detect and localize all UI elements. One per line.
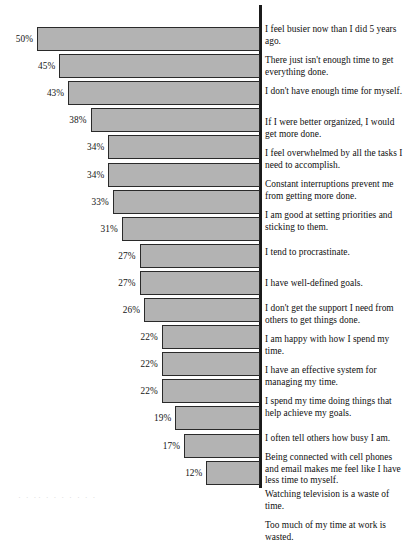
bar bbox=[184, 434, 260, 458]
bar bbox=[175, 406, 260, 430]
statement-label: I have well-defined goals. bbox=[265, 278, 406, 290]
statement-label: I often tell others how busy I am. bbox=[265, 433, 406, 445]
bar-value-label: 17% bbox=[138, 441, 180, 452]
bar-value-label: 12% bbox=[160, 468, 202, 479]
bar bbox=[140, 244, 260, 268]
bar bbox=[122, 217, 260, 241]
bar-value-label: 22% bbox=[116, 386, 158, 397]
bar-value-label: 27% bbox=[94, 278, 136, 289]
bar-value-label: 26% bbox=[98, 305, 140, 316]
bar bbox=[37, 27, 260, 51]
bar-value-label: 45% bbox=[13, 61, 55, 72]
bar-value-label: 50% bbox=[0, 34, 33, 45]
bar bbox=[140, 271, 260, 295]
bar-value-label: 34% bbox=[62, 142, 104, 153]
bar bbox=[68, 81, 260, 105]
statement-label: I am happy with how I spend my time. bbox=[265, 334, 406, 357]
bar bbox=[91, 108, 260, 132]
statement-label: I tend to procrastinate. bbox=[265, 247, 406, 259]
statement-label: There just isn't enough time to get ever… bbox=[265, 55, 406, 78]
statement-label: I spend my time doing things that help a… bbox=[265, 396, 406, 419]
bar-value-label: 27% bbox=[94, 251, 136, 262]
statement-label: Too much of my time at work is wasted. bbox=[265, 520, 406, 543]
statement-label: I feel overwhelmed by all the tasks I ne… bbox=[265, 148, 406, 171]
statement-label: Constant interruptions prevent me from g… bbox=[265, 179, 406, 202]
bar-value-label: 19% bbox=[129, 413, 171, 424]
statement-label: If I were better organized, I would get … bbox=[265, 117, 406, 140]
statement-label: I am good at setting priorities and stic… bbox=[265, 210, 406, 233]
bar-value-label: 31% bbox=[76, 224, 118, 235]
statement-label: I don't get the support I need from othe… bbox=[265, 303, 406, 326]
statement-label: I feel busier now than I did 5 years ago… bbox=[265, 24, 406, 47]
bar bbox=[108, 135, 260, 159]
bar-value-label: 22% bbox=[116, 359, 158, 370]
bar bbox=[59, 54, 260, 78]
bar-value-label: 38% bbox=[45, 115, 87, 126]
bar-value-label: 43% bbox=[22, 88, 64, 99]
bar bbox=[162, 352, 260, 376]
statement-label: Being connected with cell phones and ema… bbox=[265, 452, 406, 487]
statement-label: I don't have enough time for myself. bbox=[265, 86, 406, 98]
bar-value-label: 22% bbox=[116, 332, 158, 343]
bar bbox=[144, 298, 260, 322]
bar bbox=[206, 461, 260, 485]
bar-value-label: 33% bbox=[67, 197, 109, 208]
bar bbox=[113, 190, 260, 214]
bar bbox=[162, 325, 260, 349]
bar-value-label: 34% bbox=[62, 170, 104, 181]
bar bbox=[108, 163, 260, 187]
page-bleed-text: · · ·· · · · · · · · bbox=[18, 492, 394, 502]
statement-label: I have an effective system for managing … bbox=[265, 365, 406, 388]
bar bbox=[162, 379, 260, 403]
